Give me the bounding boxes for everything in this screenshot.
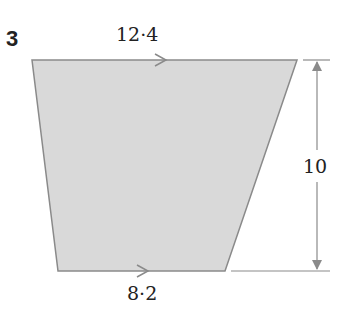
arrowhead-up-icon (312, 61, 322, 71)
trapezium-diagram: 3 12·4 10 8·2 (0, 0, 350, 324)
height-label: 10 (303, 155, 327, 177)
top-side-label: 12·4 (116, 23, 158, 45)
bottom-side-label: 8·2 (127, 282, 157, 304)
trapezium-shape (32, 60, 297, 271)
question-number: 3 (6, 26, 18, 51)
arrowhead-down-icon (312, 260, 322, 270)
